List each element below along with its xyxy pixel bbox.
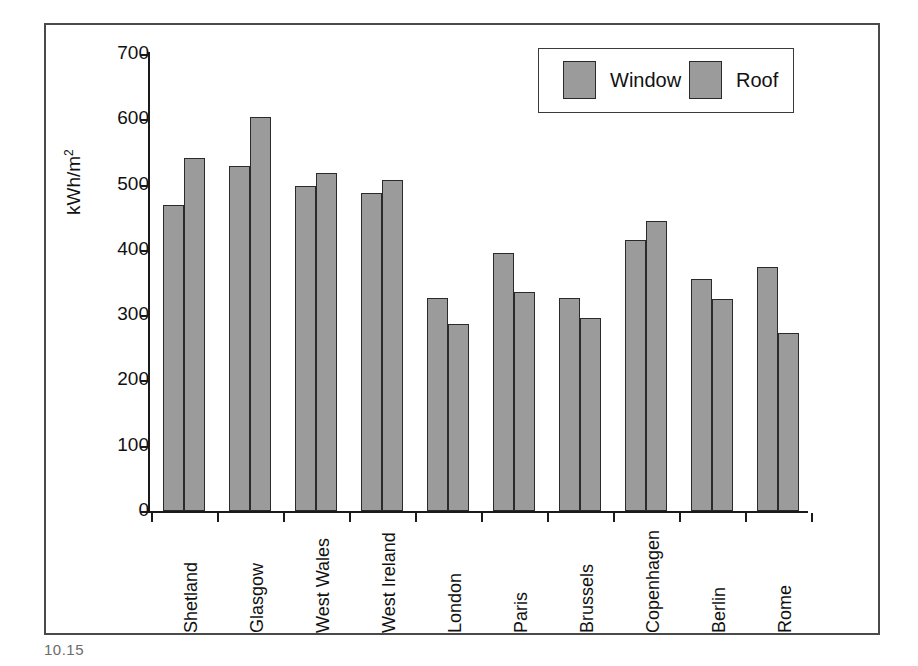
legend-label-window: Window	[610, 69, 681, 92]
legend-swatch-window	[563, 61, 596, 99]
legend-label-roof: Roof	[736, 69, 778, 92]
legend-entry-window: Window	[563, 61, 681, 99]
chart-legend: Window Roof	[538, 48, 794, 113]
figure-caption: 10.15	[44, 641, 84, 658]
legend-swatch-roof	[689, 61, 722, 99]
legend-entry-roof: Roof	[689, 61, 778, 99]
figure-frame	[44, 23, 880, 635]
